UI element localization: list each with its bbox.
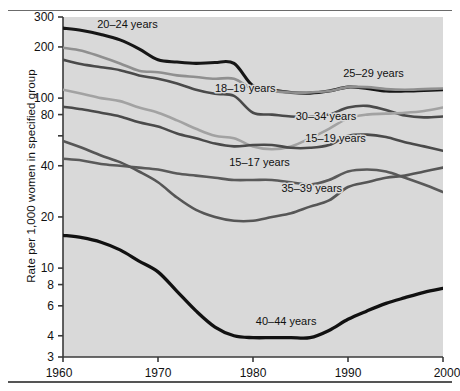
y-tick-label: 200 — [34, 40, 54, 54]
series-label-18-19-years: 18–19 years — [215, 82, 276, 94]
series-label-15-17-years: 15–17 years — [229, 156, 290, 168]
y-tick-label: 10 — [41, 261, 55, 275]
x-tick-label: 2000 — [434, 366, 460, 380]
series-label-25-29-years: 25–29 years — [343, 67, 404, 79]
series-label-40-44-years: 40–44 years — [256, 315, 317, 327]
y-tick-label: 8 — [47, 278, 54, 292]
series-label-15-19-years: 15–19 years — [305, 132, 366, 144]
y-tick-label: 300 — [34, 10, 54, 24]
x-axis-ticks: 19601970198019902000 — [46, 357, 460, 380]
x-tick-label: 1980 — [240, 366, 267, 380]
series-label-30-34-years: 30–34 years — [296, 110, 357, 122]
series-label-35-39-years: 35–39 years — [282, 182, 343, 194]
y-tick-label: 3 — [47, 350, 54, 364]
plot-area-wrapper: 300200100804020108643 196019701980199020… — [0, 0, 460, 391]
y-tick-label: 40 — [41, 159, 55, 173]
line-chart-svg: 300200100804020108643 196019701980199020… — [0, 0, 460, 391]
y-tick-label: 6 — [47, 299, 54, 313]
y-tick-label: 80 — [41, 108, 55, 122]
x-tick-label: 1960 — [46, 366, 73, 380]
y-tick-label: 100 — [34, 91, 54, 105]
y-tick-label: 4 — [47, 329, 54, 343]
y-axis-ticks: 300200100804020108643 — [34, 10, 63, 364]
x-tick-label: 1970 — [145, 366, 172, 380]
x-tick-label: 1990 — [335, 366, 362, 380]
figure-birth-rates-by-age: Rate per 1,000 women in specified group … — [0, 0, 460, 391]
series-label-20-24-years: 20–24 years — [97, 18, 158, 30]
y-tick-label: 20 — [41, 210, 55, 224]
